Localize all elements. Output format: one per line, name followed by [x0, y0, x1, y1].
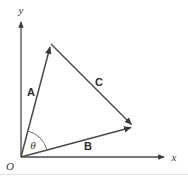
origin-label: O: [6, 160, 14, 172]
vector-diagram-canvas: y x O A B C θ: [0, 0, 188, 180]
vector-a-label: A: [27, 86, 35, 98]
vector-b-line: [21, 128, 131, 158]
angle-theta-label: θ: [30, 139, 36, 151]
x-axis-label: x: [171, 151, 177, 163]
vector-triangle-figure: y x O A B C θ: [0, 0, 188, 180]
vector-b-label: B: [84, 140, 92, 152]
vector-c-label: C: [95, 76, 103, 88]
vector-c-line: [51, 44, 132, 125]
y-axis-label: y: [18, 4, 24, 16]
